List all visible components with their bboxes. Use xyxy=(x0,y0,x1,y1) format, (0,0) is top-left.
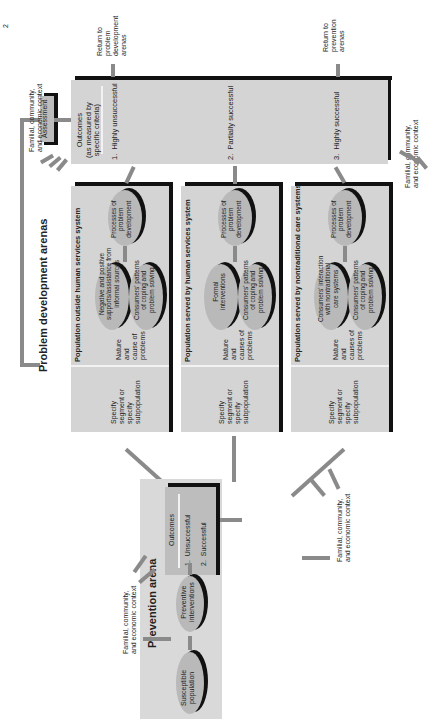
prevention-outcomes-shadow-right xyxy=(216,483,220,575)
prevention-outcomes-divider xyxy=(178,494,180,568)
panel-2-arrow-to-outcomes xyxy=(233,166,237,184)
return-problem-arrow xyxy=(111,64,115,77)
panel-3-arrow-to-process xyxy=(343,246,347,262)
prevention-context-right-arrow-2 xyxy=(310,479,326,497)
return-prevention-arrow xyxy=(336,64,340,77)
panel-2-arrow-to-process xyxy=(233,246,237,262)
panel-3-ellipse-b-label: Consumers' patterns of coping and proble… xyxy=(352,260,374,320)
prevention-context-left-arrow-1 xyxy=(143,637,171,641)
panel-3-shadow-right xyxy=(389,182,393,432)
panel-2-shadow-right xyxy=(279,182,283,432)
prevention-context-right-label: Familial, community, and economic contex… xyxy=(336,494,352,562)
panel-3-specify: Specify segment or specify subpopulation xyxy=(328,380,360,424)
panel-1-arrow-to-process xyxy=(123,246,127,262)
page-number: 2 xyxy=(2,24,10,28)
prevention-success-arrow xyxy=(220,518,242,522)
panel-3-divider xyxy=(291,365,389,367)
panel-1-ellipse-b-label: Consumers' patterns of coping and proble… xyxy=(133,260,155,320)
prevention-outcome-2: 2. Successful xyxy=(200,522,208,566)
context-top-label: Familial, community, and economic contex… xyxy=(28,84,44,152)
panel-1-divider xyxy=(71,365,169,367)
panel-3-title: Population served by nontraditional care… xyxy=(294,184,303,362)
feedback-line xyxy=(20,120,24,366)
panel-2-divider xyxy=(181,365,279,367)
prevention-outcome-1: 1. Unsuccessful xyxy=(184,515,192,566)
prevention-context-left-label: Familial, community, and economic contex… xyxy=(122,586,138,654)
susceptible-to-interventions-arrow xyxy=(188,636,192,650)
susceptible-population-label: Susceptible population xyxy=(180,670,196,706)
panel-2-title: Population served by human services syst… xyxy=(184,199,193,362)
panel-1-title: Population outside human services system xyxy=(74,208,83,362)
outcome-item-1: 1. Highly unsuccessful xyxy=(111,83,120,160)
problem-development-title: Problem development arenas xyxy=(37,219,50,372)
panel-1-ellipse-a-label: Negative and positive supports/assistanc… xyxy=(98,248,120,320)
outcome-item-3: 3. Highly successful xyxy=(333,92,342,160)
panel-1-specify: Specify segment or specify subpopulation xyxy=(110,380,142,424)
panel-2-nature: Nature and causes of problems xyxy=(222,330,254,360)
panel-1-nature: Nature and cause of problems xyxy=(115,331,147,360)
prevention-outcomes-heading: Outcomes xyxy=(168,514,176,546)
outcomes-heading: Outcomes (as measured by specific criter… xyxy=(76,102,102,158)
return-problem-label: Return to problem development arenas xyxy=(96,16,128,56)
panel-1-process-label: Processes of problem development xyxy=(110,200,132,238)
prevention-context-right-arrow-3 xyxy=(328,468,341,490)
outcomes-to-assessment-arrow xyxy=(54,118,71,122)
panel-3-nature: Nature and causes of problems xyxy=(332,330,364,360)
panel-2-specify: Specify segment or specify subpopulation xyxy=(218,380,250,424)
prevention-context-right-arrow-1 xyxy=(302,556,330,560)
panel-3-process-label: Processes of problem development xyxy=(330,200,352,238)
panel-2-ellipse-a-label: Formal interventions xyxy=(212,273,227,310)
outcome-item-2: 2. Partially successful xyxy=(227,86,236,160)
panel-1-shadow-right xyxy=(169,182,173,432)
panel-2-ellipse-b-label: Consumers' patterns of coping and proble… xyxy=(242,260,264,320)
panel-3-ellipse-a-label: Consumers' interaction with nontradition… xyxy=(317,256,339,322)
return-prevention-label: Return to prevention arenas xyxy=(322,19,346,52)
preventive-interventions-label: Preventive interventions xyxy=(180,582,196,622)
panel-2-process-label: Processes of problem development xyxy=(220,200,242,238)
interventions-to-outcomes-arrow xyxy=(188,563,192,575)
prevention-to-panel-2-arrow xyxy=(232,436,236,482)
